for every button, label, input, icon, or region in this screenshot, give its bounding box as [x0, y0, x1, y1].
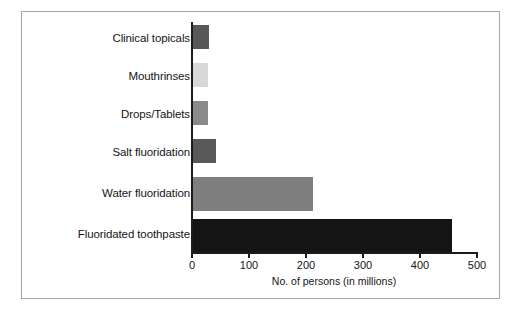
- chart-figure: Clinical topicals Mouthrinses Drops/Tabl…: [0, 0, 521, 317]
- x-tick-label: 100: [240, 259, 258, 271]
- x-tick-label: 200: [297, 259, 315, 271]
- plot-area: Clinical topicals Mouthrinses Drops/Tabl…: [0, 0, 521, 317]
- category-label: Salt fluoridation: [112, 146, 190, 158]
- x-tick-label: 400: [411, 259, 429, 271]
- x-tick: [476, 252, 478, 258]
- x-axis-spine: [191, 252, 477, 254]
- x-tick: [362, 252, 364, 258]
- x-tick: [419, 252, 421, 258]
- bar-drops-tablets: [193, 101, 208, 125]
- x-tick-label: 300: [354, 259, 372, 271]
- category-label: Mouthrinses: [128, 70, 190, 82]
- x-tick: [248, 252, 250, 258]
- category-label: Clinical topicals: [112, 32, 190, 44]
- y-axis-spine: [191, 22, 193, 252]
- bar-water-fluoridation: [193, 177, 313, 211]
- bar-salt-fluoridation: [193, 139, 216, 163]
- category-label: Water fluoridation: [102, 187, 190, 199]
- x-tick-label: 500: [468, 259, 486, 271]
- bar-mouthrinses: [193, 63, 208, 87]
- category-label: Drops/Tablets: [121, 108, 190, 120]
- x-tick: [191, 252, 193, 258]
- bar-fluoridated-toothpaste: [193, 219, 452, 252]
- bar-clinical-topicals: [193, 25, 209, 49]
- x-tick-label: 0: [189, 259, 195, 271]
- x-axis-title: No. of persons (in millions): [191, 275, 477, 287]
- x-tick: [305, 252, 307, 258]
- category-label: Fluoridated toothpaste: [78, 228, 190, 240]
